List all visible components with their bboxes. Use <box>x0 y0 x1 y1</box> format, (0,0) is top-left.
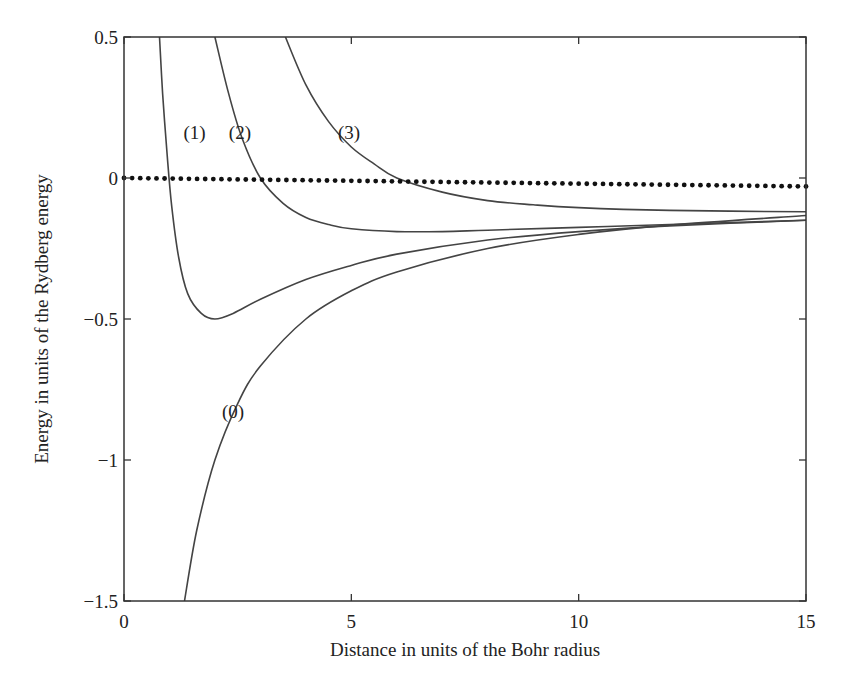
energy-chart: 0510150.50−0.5−1−1.5 (0)(1)(2)(3) Distan… <box>0 0 856 686</box>
y-axis-label: Energy in units of the Rydberg energy <box>31 174 52 464</box>
zero-level-dot <box>227 177 232 182</box>
zero-level-dot <box>187 176 192 181</box>
zero-level-dot <box>195 177 200 182</box>
zero-level-dot <box>487 180 492 185</box>
zero-level-dot <box>300 178 305 183</box>
y-tick-label: −1 <box>98 450 118 471</box>
zero-level-dot <box>138 176 143 181</box>
zero-level-dot <box>706 183 711 188</box>
curve-1 <box>160 37 807 319</box>
zero-level-dot <box>446 180 451 185</box>
zero-level-dot <box>698 183 703 188</box>
zero-level-dot <box>325 178 330 183</box>
zero-level-dot <box>422 179 427 184</box>
zero-level-dot <box>292 178 297 183</box>
zero-level-dot <box>162 176 167 181</box>
y-tick-label: −0.5 <box>84 309 118 330</box>
axis-ticks: 0510150.50−0.5−1−1.5 <box>84 27 816 632</box>
zero-level-dot <box>406 179 411 184</box>
zero-level-dot <box>601 182 606 187</box>
zero-level-dot <box>373 179 378 184</box>
zero-level-dot <box>170 176 175 181</box>
zero-level-dot <box>503 180 508 185</box>
curve-0 <box>185 216 807 602</box>
zero-level-dot <box>771 184 776 189</box>
zero-level-dot <box>219 177 224 182</box>
curve-label-0: (0) <box>222 401 244 423</box>
zero-level-dot <box>552 181 557 186</box>
zero-level-dot <box>722 183 727 188</box>
zero-level-dot <box>633 182 638 187</box>
zero-level-dot <box>243 177 248 182</box>
zero-level-dot <box>381 179 386 184</box>
zero-level-dot <box>308 178 313 183</box>
zero-level-dot <box>146 176 151 181</box>
zero-level-dot <box>349 178 354 183</box>
zero-level-dot <box>568 181 573 186</box>
x-tick-label: 15 <box>797 611 816 632</box>
zero-level-dot <box>284 178 289 183</box>
zero-level-dot <box>430 179 435 184</box>
zero-level-dot <box>276 178 281 183</box>
zero-level-dot <box>268 177 273 182</box>
zero-level-dot <box>787 184 792 189</box>
zero-level-dot <box>333 178 338 183</box>
zero-level-dot <box>211 177 216 182</box>
zero-level-dot <box>511 180 516 185</box>
zero-level-dot <box>714 183 719 188</box>
zero-level-dot <box>454 180 459 185</box>
zero-level-dot <box>178 176 183 181</box>
zero-level-dot <box>795 184 800 189</box>
zero-level-dot <box>479 180 484 185</box>
y-tick-label: −1.5 <box>84 591 118 612</box>
zero-level-dot <box>316 178 321 183</box>
curve-labels: (0)(1)(2)(3) <box>183 122 360 423</box>
zero-level-dot <box>690 183 695 188</box>
y-tick-label: 0 <box>109 168 119 189</box>
zero-level-dot <box>438 180 443 185</box>
zero-level-dot <box>544 181 549 186</box>
x-axis-label: Distance in units of the Bohr radius <box>330 639 600 660</box>
y-tick-label: 0.5 <box>94 27 118 48</box>
zero-level-dot <box>682 183 687 188</box>
zero-level-dot <box>576 181 581 186</box>
zero-level-dot <box>560 181 565 186</box>
zero-level-dot <box>731 183 736 188</box>
zero-level-dot <box>609 182 614 187</box>
zero-level-dot <box>341 178 346 183</box>
axes-frame <box>124 37 806 601</box>
zero-level-dot <box>755 183 760 188</box>
zero-level-dot <box>203 177 208 182</box>
zero-level-dot <box>154 176 159 181</box>
zero-level-dot <box>657 182 662 187</box>
zero-level-dot <box>414 179 419 184</box>
curve-label-3: (3) <box>338 122 360 144</box>
zero-level-dot <box>495 180 500 185</box>
zero-level-dot <box>252 177 257 182</box>
zero-level-dot <box>641 182 646 187</box>
zero-level-dot <box>365 179 370 184</box>
zero-level-dot <box>666 182 671 187</box>
zero-level-dot <box>260 177 265 182</box>
zero-level-dot <box>528 181 533 186</box>
zero-level-dot <box>649 182 654 187</box>
zero-level-dot <box>617 182 622 187</box>
zero-level-dot <box>763 184 768 189</box>
zero-level-dot <box>235 177 240 182</box>
x-tick-label: 0 <box>119 611 129 632</box>
zero-level-dot <box>398 179 403 184</box>
plot-area <box>122 37 809 601</box>
zero-level-dot <box>625 182 630 187</box>
zero-level-dot <box>584 181 589 186</box>
zero-level-dot <box>390 179 395 184</box>
zero-level-dot <box>463 180 468 185</box>
zero-level-dot <box>536 181 541 186</box>
zero-level-dot <box>739 183 744 188</box>
zero-level-dot <box>674 182 679 187</box>
zero-level-dot <box>593 181 598 186</box>
zero-level-dot <box>747 183 752 188</box>
x-tick-label: 10 <box>569 611 588 632</box>
zero-level-dot <box>519 181 524 186</box>
zero-level-dot <box>471 180 476 185</box>
curve-label-1: (1) <box>183 122 205 144</box>
